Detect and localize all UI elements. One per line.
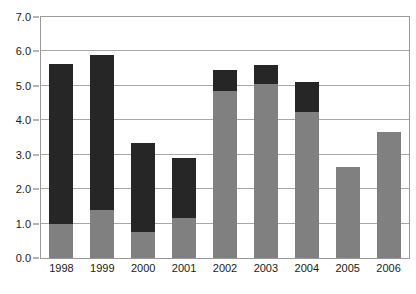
x-tick-label: 2000 [131,262,155,274]
y-tick-mark [33,189,39,190]
y-tick-mark [33,154,39,155]
x-tick-label: 2002 [213,262,237,274]
bar-group [295,17,319,258]
x-tick-label: 2001 [172,262,196,274]
y-tick-mark [33,85,39,86]
bar-group [131,17,155,258]
bar-segment-cash-and-savings [49,224,73,258]
bar-group [172,17,196,258]
bar-group [90,17,114,258]
y-axis: 0.01.02.03.04.05.06.07.0 [0,0,40,294]
bar-segment-cash-and-savings [213,91,237,258]
bar-segment-investments [213,70,237,91]
y-tick-mark [33,51,39,52]
y-tick-mark [33,258,39,259]
x-tick-label: 2005 [335,262,359,274]
bar-segment-cash-and-savings [377,132,401,258]
y-tick-label: 4.0 [16,114,31,126]
x-tick-label: 2004 [295,262,319,274]
bar-segment-investments [254,65,278,84]
x-tick-label: 2006 [376,262,400,274]
bar-group [49,17,73,258]
bar-segment-cash-and-savings [172,218,196,258]
y-tick-label: 6.0 [16,45,31,57]
bar-segment-investments [49,64,73,224]
bar-segment-investments [131,143,155,233]
bar-segment-investments [172,158,196,218]
x-tick-label: 2003 [254,262,278,274]
y-tick-mark [33,223,39,224]
y-tick-label: 2.0 [16,183,31,195]
bar-group [377,17,401,258]
bar-segment-investments [295,82,319,111]
bars-layer [41,17,409,258]
bar-segment-cash-and-savings [254,84,278,258]
bar-segment-cash-and-savings [295,112,319,258]
bar-segment-investments [90,55,114,210]
bar-chart: Investments Cash and savings 0.01.02.03.… [0,0,416,294]
y-tick-label: 7.0 [16,11,31,23]
bar-segment-cash-and-savings [336,167,360,258]
y-tick-mark [33,17,39,18]
x-tick-label: 1998 [49,262,73,274]
bar-segment-cash-and-savings [131,232,155,258]
y-tick-label: 5.0 [16,80,31,92]
bar-group [336,17,360,258]
y-tick-mark [33,120,39,121]
y-tick-label: 0.0 [16,252,31,264]
bar-segment-cash-and-savings [90,210,114,258]
y-tick-label: 3.0 [16,149,31,161]
x-tick-label: 1999 [90,262,114,274]
y-tick-label: 1.0 [16,218,31,230]
bar-group [254,17,278,258]
bar-group [213,17,237,258]
x-axis: 199819992000200120022003200420052006 [41,262,409,282]
